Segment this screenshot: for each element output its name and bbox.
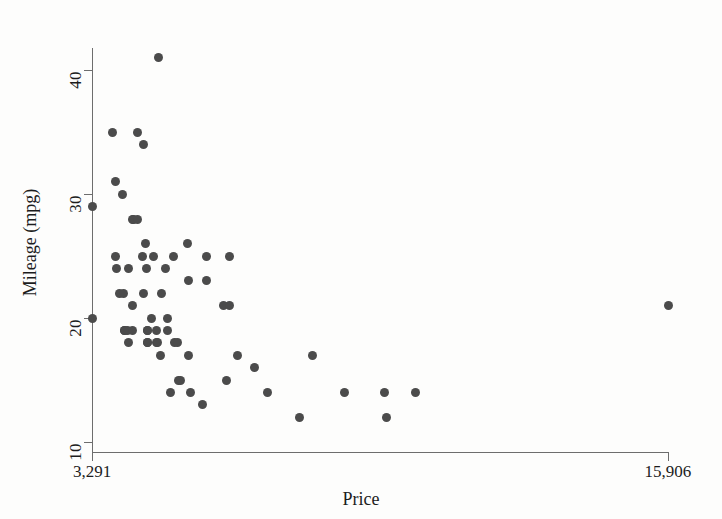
- data-point: [225, 301, 234, 310]
- data-point: [88, 202, 97, 211]
- scatter-chart: 10203040 3,29115,906 Mileage (mpg) Price: [0, 0, 722, 519]
- data-point: [124, 264, 133, 273]
- x-tick-mark: [668, 453, 669, 461]
- data-point: [184, 276, 193, 285]
- data-point: [411, 388, 420, 397]
- data-point: [295, 413, 304, 422]
- data-point: [111, 177, 120, 186]
- y-tick-label: 40: [66, 71, 86, 89]
- data-point: [380, 388, 389, 397]
- data-point: [163, 326, 172, 335]
- data-point: [124, 338, 133, 347]
- x-tick-mark: [92, 453, 93, 461]
- data-point: [149, 252, 158, 261]
- data-point: [128, 326, 137, 335]
- y-axis-title: Mileage (mpg): [20, 143, 41, 343]
- data-point: [88, 314, 97, 323]
- data-point: [133, 215, 142, 224]
- data-point: [222, 376, 231, 385]
- data-point: [157, 289, 166, 298]
- data-point: [138, 252, 147, 261]
- data-point: [169, 252, 178, 261]
- data-point: [308, 351, 317, 360]
- x-tick-label: 15,906: [645, 462, 692, 482]
- data-point: [118, 190, 127, 199]
- data-point: [225, 252, 234, 261]
- data-point: [664, 301, 673, 310]
- data-point: [139, 140, 148, 149]
- data-point: [198, 400, 207, 409]
- data-point: [141, 239, 150, 248]
- data-point: [156, 351, 165, 360]
- data-point: [233, 351, 242, 360]
- data-point: [142, 264, 151, 273]
- plot-area: [92, 48, 668, 452]
- data-point: [161, 264, 170, 273]
- data-point: [152, 326, 161, 335]
- data-point: [153, 338, 162, 347]
- data-point: [250, 363, 259, 372]
- data-point: [112, 264, 121, 273]
- data-point: [154, 53, 163, 62]
- data-point: [143, 326, 152, 335]
- data-point: [139, 289, 148, 298]
- data-point: [202, 252, 211, 261]
- data-point: [147, 314, 156, 323]
- data-point: [173, 338, 182, 347]
- data-point: [108, 128, 117, 137]
- data-point: [382, 413, 391, 422]
- data-point: [176, 376, 185, 385]
- data-point: [163, 314, 172, 323]
- data-point: [202, 276, 211, 285]
- data-point: [128, 301, 137, 310]
- data-point: [133, 128, 142, 137]
- data-point: [183, 239, 192, 248]
- y-tick-label: 30: [66, 195, 86, 213]
- y-tick-label: 10: [66, 443, 86, 461]
- data-point: [111, 252, 120, 261]
- data-point: [119, 289, 128, 298]
- data-point: [166, 388, 175, 397]
- data-point: [263, 388, 272, 397]
- x-axis-title: Price: [0, 489, 722, 510]
- data-point: [340, 388, 349, 397]
- y-tick-label: 20: [66, 319, 86, 337]
- x-axis-line: [92, 452, 669, 453]
- data-point: [186, 388, 195, 397]
- data-point: [184, 351, 193, 360]
- x-tick-label: 3,291: [73, 462, 111, 482]
